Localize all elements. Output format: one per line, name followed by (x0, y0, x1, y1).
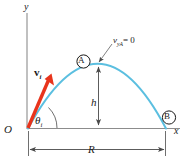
trajectory-curve (28, 64, 166, 129)
point-b-label: B (164, 112, 170, 121)
figure-canvas (0, 0, 185, 164)
initial-velocity-label: vi (34, 67, 41, 81)
x-axis-label: x (174, 126, 178, 136)
launch-angle-arc (49, 108, 58, 129)
apex-velocity-value: = 0 (123, 35, 135, 45)
launch-angle-subscript: i (40, 121, 42, 128)
height-label: h (91, 97, 97, 108)
apex-velocity-annotation: vyA= 0 (113, 36, 135, 47)
apex-annotation-leader (99, 44, 112, 62)
origin-label: O (4, 124, 12, 135)
y-axis-label: y (24, 2, 28, 12)
launch-angle-label: θi (35, 115, 42, 129)
initial-velocity-subscript: i (40, 73, 42, 80)
projectile-motion-figure: y x O vi θi vyA= 0 h R A B (0, 0, 185, 164)
range-label: R (88, 144, 95, 155)
point-a-label: A (78, 56, 85, 65)
